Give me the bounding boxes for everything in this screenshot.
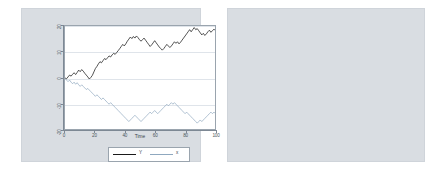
y-tick-label: 0	[58, 77, 63, 88]
x-axis-title-timeseries: Time	[130, 135, 150, 140]
chart-panel-timeseries: -20-1001020020406080100 Time Yx	[22, 9, 200, 161]
legend-key-y	[113, 154, 136, 155]
legend-label-y: Y	[139, 151, 149, 156]
x-axis-line	[64, 130, 216, 131]
x-tick-label: 20	[85, 134, 103, 139]
figure-root: -20-1001020020406080100 Time Yx -20-15-1…	[0, 0, 444, 172]
y-tick-label: 10	[58, 51, 63, 62]
y-tick-label: -10	[58, 103, 63, 114]
series-line-x	[65, 79, 215, 124]
y-tick-label: 20	[58, 24, 63, 35]
chart-panel-scatter: -20-15-10-5005101520 x Y	[228, 9, 424, 161]
legend-timeseries: Yx	[108, 147, 190, 162]
legend-key-x	[150, 154, 173, 155]
y-axis-line	[63, 25, 64, 130]
legend-label-x: x	[176, 151, 186, 156]
x-tick-label: 80	[177, 134, 195, 139]
x-tick-label: 0	[55, 134, 73, 139]
x-tick-label: 100	[207, 134, 225, 139]
plot-area-timeseries	[64, 25, 216, 130]
series-line-y	[65, 28, 215, 79]
series-lines-timeseries	[65, 26, 215, 129]
